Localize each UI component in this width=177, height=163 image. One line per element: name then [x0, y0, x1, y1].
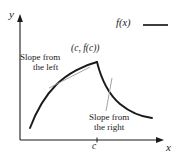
- y-axis-label: y: [9, 9, 14, 21]
- diagram-canvas: [0, 0, 177, 163]
- calculus-cusp-diagram: y x c f(x) (c, f(c)) Slope from the left…: [0, 0, 177, 163]
- slope-left-line-2: the left: [20, 63, 60, 73]
- slope-right-line-1: Slope from: [89, 112, 129, 122]
- x-axis-arrowhead: [156, 137, 164, 143]
- x-tick-label-c: c: [92, 141, 96, 151]
- y-axis-arrowhead: [17, 14, 23, 22]
- slope-right-line-2: the right: [89, 123, 129, 133]
- slope-from-right-label: Slope from the right: [89, 113, 129, 132]
- slope-from-left-label: Slope from the left: [20, 53, 60, 72]
- slope-left-line-1: Slope from: [20, 52, 60, 62]
- y-axis: [17, 14, 23, 140]
- cusp-point-label: (c, f(c)): [71, 43, 99, 53]
- curve-right-branch: [97, 62, 152, 118]
- legend-label-fx: f(x): [116, 17, 131, 28]
- x-axis-label: x: [166, 142, 171, 154]
